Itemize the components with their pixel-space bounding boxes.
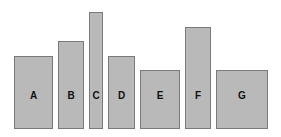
block-diagram: A B C D E F G: [0, 0, 281, 137]
block-a: A: [14, 56, 53, 129]
block-label-g: G: [238, 91, 246, 101]
block-c: C: [89, 12, 103, 129]
block-label-c: C: [92, 91, 99, 101]
block-g: G: [216, 70, 268, 129]
block-d: D: [108, 56, 135, 129]
block-label-b: B: [67, 91, 74, 101]
block-label-e: E: [157, 91, 164, 101]
block-f: F: [185, 27, 211, 129]
block-label-d: D: [118, 91, 125, 101]
block-e: E: [140, 70, 180, 129]
block-b: B: [58, 41, 84, 129]
block-label-f: F: [195, 91, 201, 101]
block-label-a: A: [30, 91, 37, 101]
